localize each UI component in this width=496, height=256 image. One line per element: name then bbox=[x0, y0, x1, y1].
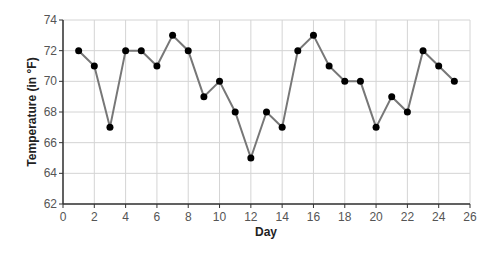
data-point bbox=[388, 93, 395, 100]
data-point bbox=[75, 47, 82, 54]
data-point bbox=[169, 32, 176, 39]
data-point bbox=[326, 63, 333, 70]
data-point bbox=[232, 109, 239, 116]
x-tick-label: 18 bbox=[338, 210, 352, 224]
y-tick-label: 68 bbox=[44, 105, 58, 119]
data-point bbox=[263, 109, 270, 116]
y-tick-label: 72 bbox=[44, 44, 58, 58]
data-point bbox=[294, 47, 301, 54]
data-point bbox=[91, 63, 98, 70]
y-tick-label: 74 bbox=[44, 13, 58, 27]
x-tick-label: 16 bbox=[307, 210, 321, 224]
data-point bbox=[357, 78, 364, 85]
data-point bbox=[216, 78, 223, 85]
x-tick-label: 10 bbox=[213, 210, 227, 224]
line-chart: 0246810121416182022242662646668707274 Da… bbox=[0, 0, 496, 256]
x-tick-label: 20 bbox=[369, 210, 383, 224]
y-tick-label: 70 bbox=[44, 74, 58, 88]
data-point bbox=[185, 47, 192, 54]
data-point bbox=[341, 78, 348, 85]
data-point bbox=[420, 47, 427, 54]
data-point bbox=[247, 155, 254, 162]
temperature-line bbox=[79, 35, 455, 158]
x-tick-label: 12 bbox=[244, 210, 258, 224]
data-point bbox=[122, 47, 129, 54]
data-point bbox=[279, 124, 286, 131]
x-axis-label: Day bbox=[255, 225, 277, 239]
x-tick-label: 2 bbox=[91, 210, 98, 224]
data-point bbox=[200, 93, 207, 100]
data-point bbox=[404, 109, 411, 116]
x-tick-label: 26 bbox=[463, 210, 477, 224]
x-tick-label: 14 bbox=[275, 210, 289, 224]
data-point bbox=[451, 78, 458, 85]
data-point bbox=[138, 47, 145, 54]
data-point bbox=[153, 63, 160, 70]
y-tick-label: 64 bbox=[44, 166, 58, 180]
x-tick-label: 8 bbox=[185, 210, 192, 224]
data-point bbox=[310, 32, 317, 39]
y-tick-label: 66 bbox=[44, 136, 58, 150]
x-tick-label: 4 bbox=[122, 210, 129, 224]
x-tick-label: 6 bbox=[154, 210, 161, 224]
data-point bbox=[106, 124, 113, 131]
x-tick-label: 22 bbox=[401, 210, 415, 224]
x-tick-label: 0 bbox=[60, 210, 67, 224]
y-tick-label: 62 bbox=[44, 197, 58, 211]
data-point bbox=[373, 124, 380, 131]
y-axis-label: Temperature (in °F) bbox=[25, 57, 39, 166]
data-point bbox=[435, 63, 442, 70]
x-tick-label: 24 bbox=[432, 210, 446, 224]
